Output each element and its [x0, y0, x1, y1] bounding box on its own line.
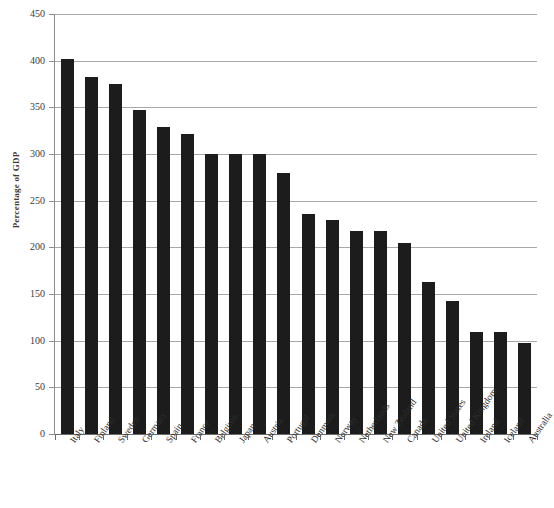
bar [61, 59, 74, 434]
x-tick-mark [79, 435, 80, 440]
y-tick-label: 150 [5, 289, 45, 299]
x-tick-mark [296, 435, 297, 440]
bar [350, 231, 363, 434]
bar [253, 154, 266, 434]
y-tick-label: 450 [5, 9, 45, 19]
bar [181, 134, 194, 434]
y-tick-label: 250 [5, 196, 45, 206]
x-tick-mark [513, 435, 514, 440]
bar [302, 214, 315, 434]
y-tick-label: 50 [5, 382, 45, 392]
x-tick-mark [103, 435, 104, 440]
y-tick-label: 400 [5, 56, 45, 66]
x-tick-mark [392, 435, 393, 440]
bar [229, 154, 242, 434]
bars-layer [55, 14, 537, 434]
bar [326, 220, 339, 434]
y-tick-mark [49, 247, 55, 248]
bar [277, 173, 290, 434]
y-tick-label: 200 [5, 242, 45, 252]
x-tick-mark [224, 435, 225, 440]
y-tick-mark [49, 14, 55, 15]
x-tick-mark [320, 435, 321, 440]
x-tick-mark [537, 435, 538, 440]
y-tick-label: 0 [5, 429, 45, 439]
y-tick-label: 300 [5, 149, 45, 159]
x-tick-mark [248, 435, 249, 440]
x-tick-mark [368, 435, 369, 440]
x-tick-mark [441, 435, 442, 440]
bar [109, 84, 122, 434]
x-tick-mark [127, 435, 128, 440]
y-tick-mark [49, 154, 55, 155]
y-axis-title: Percentage of GDP [11, 130, 21, 250]
bar [85, 77, 98, 434]
y-tick-mark [49, 201, 55, 202]
x-tick-mark [489, 435, 490, 440]
x-tick-mark [176, 435, 177, 440]
bar [157, 127, 170, 434]
y-tick-label: 100 [5, 336, 45, 346]
x-tick-mark [151, 435, 152, 440]
x-tick-mark [417, 435, 418, 440]
x-tick-mark [200, 435, 201, 440]
x-tick-mark [344, 435, 345, 440]
y-tick-label: 350 [5, 102, 45, 112]
y-tick-mark [49, 341, 55, 342]
bar [205, 154, 218, 434]
x-tick-mark [55, 435, 56, 440]
y-tick-mark [49, 61, 55, 62]
bar [422, 282, 435, 434]
bar [133, 110, 146, 434]
x-tick-mark [272, 435, 273, 440]
x-tick-mark [465, 435, 466, 440]
y-tick-mark [49, 107, 55, 108]
y-tick-mark [49, 387, 55, 388]
y-tick-mark [49, 294, 55, 295]
